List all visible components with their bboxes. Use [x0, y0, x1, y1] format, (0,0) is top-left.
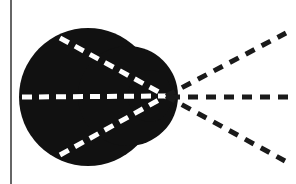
converging-rays-diagram [0, 0, 296, 184]
outer-dashed-rays [166, 33, 296, 161]
outer-upper-ray [166, 33, 286, 96]
diagram-canvas [0, 0, 296, 184]
inner-middle-ray [22, 96, 166, 97]
outer-lower-ray [166, 96, 285, 161]
